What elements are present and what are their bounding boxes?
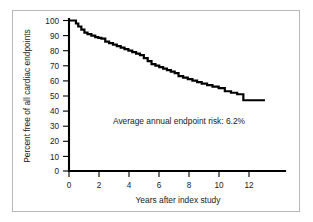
x-tick-label: 2 (97, 181, 102, 190)
x-tick-label: 12 (244, 181, 254, 190)
x-axis-tick-labels: 0 2 4 6 8 10 12 (67, 181, 254, 190)
risk-annotation: Average annual endpoint risk: 6.2% (113, 116, 246, 126)
y-tick-label: 20 (50, 137, 60, 146)
y-tick-label: 0 (54, 167, 59, 176)
x-tick-label: 8 (187, 181, 192, 190)
figure-frame: 100 90 80 70 60 50 40 30 20 10 0 (12, 10, 300, 212)
chart-page: 100 90 80 70 60 50 40 30 20 10 0 (0, 0, 313, 222)
survival-curve-line (69, 21, 265, 101)
x-tick-label: 10 (214, 181, 224, 190)
y-tick-label: 90 (50, 32, 60, 41)
x-axis-title: Years after index study (136, 195, 222, 205)
y-axis-title: Percent free of all cardiac endpoints (22, 29, 32, 163)
y-tick-label: 50 (50, 92, 60, 101)
y-tick-label: 40 (50, 107, 60, 116)
y-tick-label: 70 (50, 62, 60, 71)
x-tick-label: 6 (157, 181, 162, 190)
y-tick-label: 30 (50, 122, 60, 131)
y-tick-label: 10 (50, 153, 60, 162)
y-tick-label: 80 (50, 47, 60, 56)
survival-curve-chart: 100 90 80 70 60 50 40 30 20 10 0 (13, 11, 299, 211)
y-tick-label: 100 (45, 17, 59, 26)
x-tick-label: 0 (67, 181, 72, 190)
x-tick-label: 4 (127, 181, 132, 190)
y-tick-label: 60 (50, 77, 60, 86)
y-axis-tick-labels: 100 90 80 70 60 50 40 30 20 10 0 (45, 17, 59, 177)
